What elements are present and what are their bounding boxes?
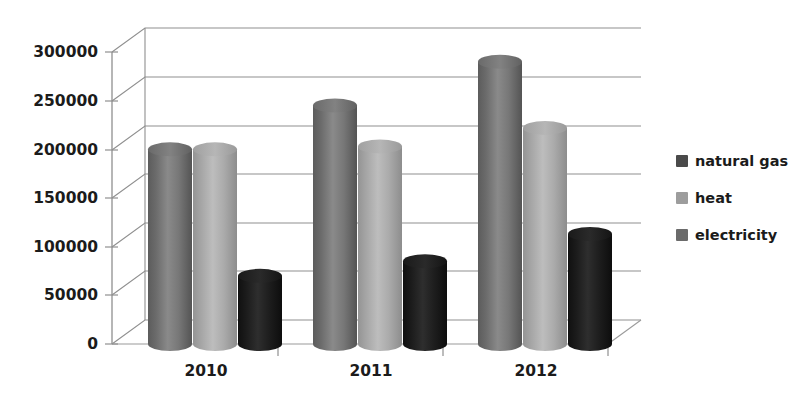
y-axis-label-250000: 250000 [33,92,98,110]
gridline-300000 [112,28,641,52]
bar-top-cap [403,254,447,268]
bar-body [193,149,237,351]
bar-top-cap [313,99,357,113]
legend-swatch-heat [676,192,688,204]
bar-heat-2010 [193,142,237,351]
bar-body [478,62,522,351]
bar-body [358,146,402,351]
y-axis-label-100000: 100000 [33,238,98,256]
bar-top-cap [478,55,522,69]
bar-natural-gas-2010 [148,142,192,351]
bar-top-cap [148,142,192,156]
bars-layer [148,55,612,351]
floor-right-edge [608,320,641,344]
bar-top-cap [523,121,567,135]
bar-top-cap [568,227,612,241]
bar-top-cap [358,139,402,153]
bar-top-cap [193,142,237,156]
bar-heat-2012 [523,121,567,351]
x-axis-label-2012: 2012 [514,362,557,380]
bar-body [568,234,612,351]
bar-electricity-2011 [403,254,447,351]
legend-item-electricity: electricity [676,227,778,243]
bar-natural-gas-2011 [313,99,357,351]
bar-chart-svg: 300000 250000 200000 150000 100000 50000… [0,0,809,404]
y-axis-label-0: 0 [87,335,98,353]
legend-label-heat: heat [695,190,732,206]
bar-natural-gas-2012 [478,55,522,351]
legend-item-natural-gas: natural gas [676,153,788,169]
y-axis-label-150000: 150000 [33,189,98,207]
chart-container: 300000 250000 200000 150000 100000 50000… [0,0,809,404]
x-axis-label-2010: 2010 [184,362,227,380]
bar-group-2011 [313,99,447,351]
bar-group-2012 [478,55,612,351]
bar-electricity-2012 [568,227,612,351]
y-axis-labels: 300000 250000 200000 150000 100000 50000… [33,43,98,353]
bar-body [238,276,282,351]
x-axis-label-2011: 2011 [349,362,392,380]
gridline-250000 [112,77,641,101]
bar-top-cap [238,269,282,283]
y-axis-label-50000: 50000 [44,286,98,304]
legend-swatch-natural-gas [676,155,688,167]
bar-body [148,149,192,351]
x-axis-labels: 2010 2011 2012 [184,362,557,380]
bar-body [523,128,567,351]
y-axis-label-200000: 200000 [33,141,98,159]
y-axis-label-300000: 300000 [33,43,98,61]
legend-swatch-electricity [676,229,688,241]
legend-label-electricity: electricity [695,227,778,243]
legend-label-natural-gas: natural gas [695,153,788,169]
bar-heat-2011 [358,139,402,351]
bar-electricity-2010 [238,269,282,351]
bar-body [403,261,447,351]
bar-body [313,106,357,351]
legend-item-heat: heat [676,190,732,206]
chart-legend: natural gas heat electricity [676,153,788,243]
